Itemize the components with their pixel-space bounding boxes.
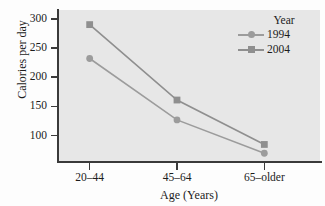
data-point-marker bbox=[86, 55, 93, 62]
legend-sample bbox=[238, 29, 264, 41]
legend-label: 2004 bbox=[267, 44, 290, 56]
legend-label: 1994 bbox=[267, 29, 290, 41]
data-point-marker bbox=[261, 150, 268, 157]
square-marker-icon bbox=[248, 46, 255, 53]
legend: Year 19942004 bbox=[238, 14, 316, 57]
data-point-marker bbox=[174, 97, 181, 104]
legend-sample bbox=[238, 44, 264, 56]
legend-item-2004[interactable]: 2004 bbox=[238, 42, 316, 57]
circle-marker-icon bbox=[248, 31, 255, 38]
data-point-marker bbox=[86, 21, 93, 28]
legend-entries: 19942004 bbox=[238, 27, 316, 57]
legend-title: Year bbox=[252, 14, 316, 27]
data-point-marker bbox=[174, 117, 181, 124]
series-line-1994 bbox=[90, 59, 265, 154]
legend-item-1994[interactable]: 1994 bbox=[238, 27, 316, 42]
data-point-marker bbox=[261, 141, 268, 148]
chart-figure: 300250200150100 Calories per day 20–4445… bbox=[0, 0, 325, 206]
